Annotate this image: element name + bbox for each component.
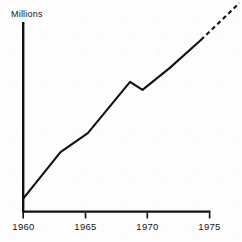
x-axis-tick-label-1965: 1965	[74, 221, 96, 232]
x-axis-tick-label-1960: 1960	[12, 221, 34, 232]
data-series-line	[23, 40, 201, 199]
chart-canvas: Millions 1960 1965 1970 1975	[0, 0, 242, 242]
line-chart: Millions 1960 1965 1970 1975	[0, 0, 242, 242]
x-axis-tick-label-1970: 1970	[136, 221, 158, 232]
y-axis-label: Millions	[11, 9, 43, 19]
data-series-projection-line	[201, 3, 240, 40]
x-axis-tick-label-1975: 1975	[198, 221, 220, 232]
